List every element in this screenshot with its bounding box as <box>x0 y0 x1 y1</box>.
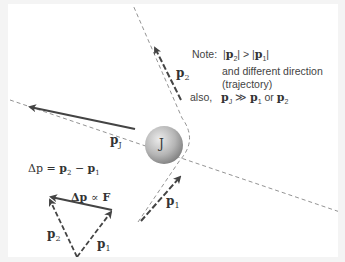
note-prefix: Note: <box>192 48 217 60</box>
curved-trajectory <box>133 5 190 222</box>
note-or: or <box>265 91 274 103</box>
diagram-canvas: J p2 pJ p1 p2 p1 Note: |p2| > |p1| and d… <box>8 4 338 257</box>
note-p1-sub: 1 <box>262 55 266 62</box>
proportional-equation: Δp ∝ F <box>71 191 110 204</box>
planet-label: J <box>159 137 164 151</box>
prop-rhs: F <box>102 191 110 204</box>
pj-label: pJ <box>110 133 122 149</box>
eq-minus: − <box>75 162 84 175</box>
eq-equals: = <box>47 162 56 175</box>
eq-lhs: Δp <box>28 162 43 175</box>
triangle-p2-label: p2 <box>47 227 60 243</box>
tri-p2-sub: 2 <box>55 234 60 243</box>
eq-p1-sub: 1 <box>95 169 99 177</box>
note-pj-sub: J <box>229 98 233 105</box>
planet-sphere <box>145 126 183 164</box>
note-line-2: and different direction <box>192 65 323 78</box>
triangle-p1-label: p1 <box>97 237 110 253</box>
eq-p2: p <box>59 162 67 175</box>
diagram-graphics <box>8 4 338 257</box>
pj-sub: J <box>118 140 121 149</box>
note-p2b-sub: 2 <box>285 98 289 105</box>
note-line-1: Note: |p2| > |p1| <box>192 48 323 65</box>
p1-sub: 1 <box>174 201 179 210</box>
delta-p-equation: Δp = p2 − p1 <box>28 162 100 177</box>
note-p2b: p <box>277 91 285 104</box>
note-p1b-sub: 1 <box>258 98 262 105</box>
note-p1b: p <box>250 91 258 104</box>
note-line-3: (trajectory) <box>192 78 323 91</box>
note-line-4: also, pJ ≫ p1 or p2 <box>190 91 323 108</box>
prop-lhs: Δp <box>71 191 87 204</box>
note-pj: p <box>221 91 229 104</box>
note-block: Note: |p2| > |p1| and different directio… <box>192 48 323 108</box>
note-much-greater: ≫ <box>235 91 247 103</box>
p2-sub: 2 <box>184 73 189 82</box>
note-p2-sub: 2 <box>233 55 237 62</box>
pj-arrow <box>30 107 135 129</box>
p1-label: p1 <box>166 194 179 210</box>
prop-op: ∝ <box>91 191 98 204</box>
planet-label-text: J <box>159 137 164 151</box>
note-also: also, <box>190 91 212 103</box>
note-gt: > <box>243 48 249 60</box>
tri-p1-sub: 1 <box>105 244 110 253</box>
eq-p2-sub: 2 <box>67 169 71 177</box>
p2-label: p2 <box>176 66 189 82</box>
